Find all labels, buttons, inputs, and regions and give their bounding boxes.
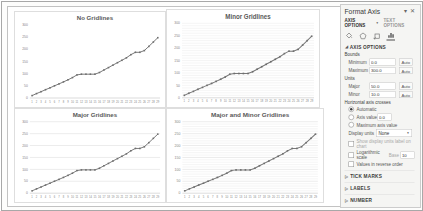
x-axis-labels: 1234567891011121314151617181920212223242… bbox=[184, 195, 318, 199]
y-axis-labels: 050100150200250300 bbox=[174, 21, 180, 100]
svg-text:7: 7 bbox=[212, 195, 214, 199]
crosses-axis-value-row[interactable]: Axis value bbox=[349, 114, 415, 121]
svg-text:2: 2 bbox=[189, 195, 191, 199]
x-axis-labels: 1234567891011121314151617181920212223242… bbox=[31, 100, 159, 104]
logarithmic-scale-checkbox-icon[interactable] bbox=[349, 152, 355, 158]
data-series-line[interactable] bbox=[184, 36, 311, 95]
svg-text:18: 18 bbox=[107, 100, 110, 104]
crosses-automatic-row[interactable]: Automatic bbox=[349, 107, 415, 113]
data-series-line[interactable] bbox=[32, 134, 158, 191]
number-section-header[interactable]: ▷ NUMBER bbox=[345, 198, 415, 204]
chart-title: Major and Minor Gridlines bbox=[211, 111, 290, 118]
reverse-order-label: Values in reverse order bbox=[357, 162, 403, 167]
display-units-dropdown[interactable]: None ▼ bbox=[376, 129, 412, 137]
svg-text:23: 23 bbox=[129, 195, 132, 199]
svg-text:9: 9 bbox=[221, 195, 223, 199]
radio-automatic-icon[interactable] bbox=[349, 107, 355, 113]
svg-text:250: 250 bbox=[22, 35, 28, 39]
maximum-row: Maximum Auto bbox=[349, 67, 415, 74]
svg-text:3: 3 bbox=[193, 99, 195, 103]
svg-text:1: 1 bbox=[31, 195, 33, 199]
pane-header: Format Axis ▾ ✕ bbox=[345, 8, 415, 16]
svg-text:150: 150 bbox=[174, 59, 180, 63]
expand-section-icon: ▷ bbox=[345, 186, 348, 191]
minor-unit-row: Minor Auto bbox=[349, 91, 415, 98]
svg-text:11: 11 bbox=[76, 100, 79, 104]
svg-text:4: 4 bbox=[45, 100, 47, 104]
svg-text:50: 50 bbox=[24, 84, 28, 88]
show-units-checkbox-icon[interactable] bbox=[349, 141, 355, 147]
svg-text:12: 12 bbox=[233, 99, 236, 103]
maximum-input[interactable] bbox=[370, 67, 396, 74]
svg-text:15: 15 bbox=[93, 100, 96, 104]
labels-section-header[interactable]: ▷ LABELS bbox=[345, 186, 415, 192]
minimum-auto-button[interactable]: Auto bbox=[399, 59, 413, 66]
svg-text:14: 14 bbox=[89, 100, 92, 104]
fill-line-icon[interactable] bbox=[345, 32, 354, 41]
svg-text:100: 100 bbox=[22, 72, 28, 76]
data-markers[interactable] bbox=[31, 37, 158, 97]
format-axis-pane: Format Axis ▾ ✕ AXIS OPTIONS ▼ TEXT OPTI… bbox=[340, 4, 421, 208]
minor-unit-input[interactable] bbox=[370, 91, 396, 98]
minimum-input[interactable] bbox=[370, 59, 396, 66]
svg-text:15: 15 bbox=[247, 99, 250, 103]
svg-text:26: 26 bbox=[297, 99, 300, 103]
tick-marks-section-header[interactable]: ▷ TICK MARKS bbox=[345, 174, 415, 180]
svg-text:12: 12 bbox=[80, 100, 83, 104]
svg-text:50: 50 bbox=[24, 179, 28, 183]
svg-text:2: 2 bbox=[36, 195, 38, 199]
svg-text:18: 18 bbox=[107, 195, 110, 199]
x-axis-labels: 1234567891011121314151617181920212223242… bbox=[184, 99, 314, 103]
size-properties-icon[interactable] bbox=[373, 32, 382, 41]
svg-text:4: 4 bbox=[45, 195, 47, 199]
svg-text:17: 17 bbox=[102, 100, 105, 104]
svg-text:25: 25 bbox=[292, 99, 295, 103]
svg-text:200: 200 bbox=[22, 47, 28, 51]
logarithmic-scale-label: Logarithmic scale bbox=[357, 150, 386, 160]
svg-text:21: 21 bbox=[120, 100, 123, 104]
data-series-line[interactable] bbox=[32, 38, 158, 96]
svg-text:20: 20 bbox=[269, 99, 272, 103]
crosses-automatic-label: Automatic bbox=[357, 107, 377, 112]
divider bbox=[345, 170, 415, 171]
data-markers[interactable] bbox=[184, 133, 316, 191]
chart-no-gridlines[interactable]: No Gridlines0501001502002503001234567891… bbox=[14, 11, 166, 108]
crosses-maximum-row[interactable]: Maximum axis value bbox=[349, 122, 415, 128]
minor-unit-auto-button[interactable]: Auto bbox=[399, 91, 413, 98]
svg-text:7: 7 bbox=[211, 99, 213, 103]
tab-text-options[interactable]: TEXT OPTIONS bbox=[383, 18, 414, 28]
svg-text:2: 2 bbox=[188, 99, 190, 103]
axis-options-section-header[interactable]: ◢ AXIS OPTIONS bbox=[345, 44, 415, 50]
radio-axis-value-icon[interactable] bbox=[349, 114, 355, 120]
svg-text:1: 1 bbox=[184, 195, 186, 199]
pane-options-icon[interactable]: ▾ bbox=[404, 9, 407, 15]
effects-icon[interactable] bbox=[359, 32, 368, 41]
svg-text:29: 29 bbox=[156, 195, 159, 199]
svg-text:21: 21 bbox=[274, 99, 277, 103]
major-unit-input[interactable] bbox=[370, 83, 396, 90]
chart-major-and-minor-gridlines[interactable]: Major and Minor Gridlines050100150200250… bbox=[166, 108, 324, 203]
data-markers[interactable] bbox=[184, 35, 313, 96]
chart-options-icon[interactable] bbox=[387, 31, 396, 41]
chevron-down-icon: ▼ bbox=[407, 132, 410, 135]
chart-major-gridlines[interactable]: Major Gridlines0501001502002503001234567… bbox=[14, 108, 166, 203]
svg-text:50: 50 bbox=[176, 179, 180, 183]
log-base-input[interactable] bbox=[401, 152, 415, 159]
data-series-line[interactable] bbox=[185, 134, 316, 191]
chart-minor-gridlines[interactable]: Minor Gridlines0501001502002503001234567… bbox=[166, 9, 320, 108]
radio-maximum-axis-value-icon[interactable] bbox=[349, 122, 355, 128]
axis-options-section-label: AXIS OPTIONS bbox=[350, 44, 386, 50]
svg-text:100: 100 bbox=[22, 168, 28, 172]
close-icon[interactable]: ✕ bbox=[410, 9, 415, 15]
data-markers[interactable] bbox=[31, 133, 158, 191]
major-unit-auto-button[interactable]: Auto bbox=[399, 83, 413, 90]
tab-axis-options[interactable]: AXIS OPTIONS ▼ bbox=[345, 18, 379, 28]
minimum-label: Minimum bbox=[349, 60, 370, 65]
svg-text:0: 0 bbox=[26, 96, 28, 100]
maximum-auto-button[interactable]: Auto bbox=[399, 67, 413, 74]
svg-text:9: 9 bbox=[67, 195, 69, 199]
reverse-order-checkbox-icon[interactable] bbox=[349, 162, 355, 168]
svg-text:16: 16 bbox=[251, 99, 254, 103]
svg-text:21: 21 bbox=[120, 195, 123, 199]
axis-value-input[interactable] bbox=[378, 114, 392, 121]
